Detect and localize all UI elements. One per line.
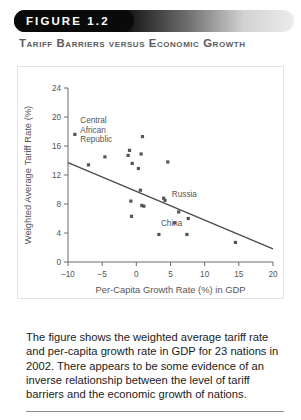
data-point	[166, 160, 169, 163]
figure-caption: The figure shows the weighted average ta…	[26, 330, 281, 401]
data-point	[163, 199, 166, 202]
figure-number-label: FIGURE 1.2	[26, 10, 110, 32]
data-point	[131, 162, 134, 165]
data-point	[185, 233, 188, 236]
x-axis-title: Per-Capita Growth Rate (%) in GDP	[95, 284, 245, 295]
x-tick-label: 20	[268, 270, 278, 279]
data-point	[177, 210, 180, 213]
data-point	[127, 154, 130, 157]
point-annotation: Central	[80, 116, 107, 125]
y-tick-label: 0	[56, 258, 61, 267]
y-axis-title: Weighted Average Tariff Rate (%)	[22, 106, 33, 244]
x-tick-label: 0	[134, 270, 139, 279]
data-point	[73, 133, 76, 136]
point-annotation: African	[80, 126, 106, 135]
x-tick-label: –5	[98, 270, 108, 279]
data-point	[187, 217, 190, 220]
point-annotation: China	[161, 219, 183, 228]
figure-banner: FIGURE 1.2	[14, 10, 294, 32]
data-point	[139, 189, 142, 192]
data-point	[137, 167, 140, 170]
data-point	[234, 241, 237, 244]
x-tick-label: –10	[61, 270, 75, 279]
y-tick-label: 24	[52, 84, 62, 93]
y-tick-label: 12	[52, 171, 62, 180]
data-point	[142, 205, 145, 208]
x-tick-label: 5	[168, 270, 173, 279]
figure-title: Tariff Barriers versus Economic Growth	[19, 36, 284, 50]
data-point	[140, 152, 143, 155]
data-point	[103, 155, 106, 158]
y-tick-label: 20	[52, 113, 62, 122]
y-tick-label: 4	[56, 229, 61, 238]
trend-line	[68, 163, 273, 249]
data-point	[141, 135, 144, 138]
point-annotation: Russia	[172, 190, 197, 199]
data-point	[130, 215, 133, 218]
x-tick-label: 10	[200, 270, 210, 279]
y-tick-label: 16	[52, 142, 62, 151]
y-tick-label: 8	[56, 200, 61, 209]
point-annotation: Republic	[80, 135, 112, 144]
scatter-chart: 04812162024–10–505101520Per-Capita Growt…	[17, 66, 284, 299]
x-tick-label: 15	[234, 270, 244, 279]
figure-page: FIGURE 1.2 Tariff Barriers versus Econom…	[0, 0, 301, 420]
data-point	[128, 149, 131, 152]
data-point	[157, 233, 160, 236]
data-point	[129, 200, 132, 203]
data-point	[87, 163, 90, 166]
footer-divider	[26, 411, 284, 412]
